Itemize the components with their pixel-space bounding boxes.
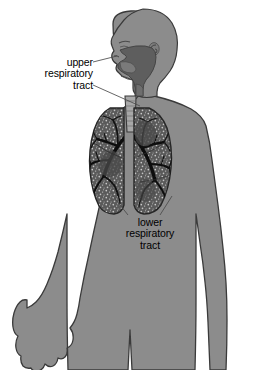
respiratory-system-diagram: upper respiratory tract lower respirator… bbox=[0, 0, 255, 370]
label-upper-line3: tract bbox=[8, 80, 93, 91]
label-upper-respiratory-tract: upper respiratory tract bbox=[8, 57, 93, 91]
label-lower-respiratory-tract: lower respiratory tract bbox=[105, 217, 195, 251]
anatomy-illustration bbox=[0, 0, 255, 370]
label-lower-line3: tract bbox=[105, 240, 195, 251]
lung-icon bbox=[88, 108, 128, 214]
